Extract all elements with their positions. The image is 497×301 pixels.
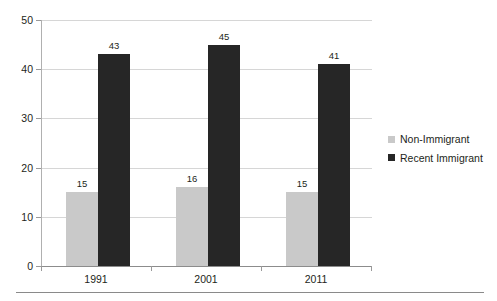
ytick-label-40: 40 <box>21 64 33 75</box>
ytick-label-10: 10 <box>21 212 33 223</box>
legend-swatch-icon-non-immigrant <box>388 136 395 143</box>
ytick-label-30: 30 <box>21 113 33 124</box>
xtick-label-2011: 2011 <box>305 274 328 285</box>
chart-legend: Non-Immigrant Recent Immigrant <box>388 134 493 171</box>
bar-label-1991-recent-immigrant: 43 <box>109 41 120 51</box>
ytick-label-20: 20 <box>21 162 33 173</box>
legend-label-non-immigrant: Non-Immigrant <box>400 134 469 145</box>
footer-divider <box>16 292 484 293</box>
gridline-50 <box>41 20 372 21</box>
xtick-label-1991: 1991 <box>84 274 107 285</box>
x-axis-line <box>41 266 372 267</box>
bar-label-2001-non-immigrant: 16 <box>187 174 198 184</box>
ytick-label-50: 50 <box>21 15 33 26</box>
bar-1991-recent-immigrant <box>98 54 130 266</box>
y-axis-line <box>41 20 42 266</box>
bar-2011-non-immigrant <box>286 192 318 266</box>
bar-label-2011-non-immigrant: 15 <box>297 179 308 189</box>
xtick-boundary-2 <box>261 266 262 271</box>
ytick-label-0: 0 <box>27 261 33 272</box>
legend-label-recent-immigrant: Recent Immigrant <box>400 153 483 164</box>
xtick-boundary-3 <box>371 266 372 271</box>
bar-2011-recent-immigrant <box>318 64 350 266</box>
bar-label-2001-recent-immigrant: 45 <box>219 32 230 42</box>
bar-label-2011-recent-immigrant: 41 <box>329 51 340 61</box>
xtick-label-2001: 2001 <box>194 274 217 285</box>
plot-area: 50 40 30 20 10 0 <box>41 20 372 266</box>
legend-item-recent-immigrant: Recent Immigrant <box>388 153 493 164</box>
legend-swatch-icon-recent-immigrant <box>388 154 395 161</box>
bar-label-1991-non-immigrant: 15 <box>77 179 88 189</box>
bar-1991-non-immigrant <box>66 192 98 266</box>
bar-2001-non-immigrant <box>176 187 208 266</box>
bar-2001-recent-immigrant <box>208 45 240 266</box>
bar-chart-figure: 50 40 30 20 10 0 <box>0 0 497 301</box>
xtick-boundary-0 <box>41 266 42 271</box>
legend-item-non-immigrant: Non-Immigrant <box>388 134 493 145</box>
xtick-boundary-1 <box>151 266 152 271</box>
